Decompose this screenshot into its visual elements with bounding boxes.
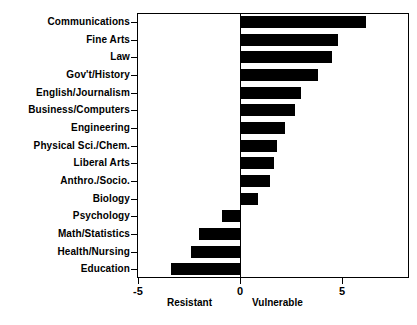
- bar: [240, 140, 277, 152]
- category-label: Law: [0, 51, 130, 62]
- axis-annotation-vulnerable: Vulnerable: [252, 297, 303, 308]
- category-label: Engineering: [0, 122, 130, 133]
- bar: [240, 69, 318, 81]
- category-label: Anthro./Socio.: [0, 175, 130, 186]
- bar: [191, 246, 240, 258]
- chart-page: CommunicationsFine ArtsLawGov't/HistoryE…: [0, 0, 417, 325]
- category-label: Communications: [0, 16, 130, 27]
- y-axis-tick: [131, 216, 137, 217]
- bar: [240, 104, 295, 116]
- bar: [171, 263, 240, 275]
- y-axis-tick: [131, 199, 137, 200]
- plot-area: [137, 13, 409, 278]
- category-label: Education: [0, 263, 130, 274]
- category-label: Physical Sci./Chem.: [0, 140, 130, 151]
- category-label: English/Journalism: [0, 87, 130, 98]
- y-axis-tick: [131, 110, 137, 111]
- bar: [199, 228, 240, 240]
- y-axis-tick: [131, 40, 137, 41]
- y-axis-tick: [131, 57, 137, 58]
- y-axis-tick: [131, 181, 137, 182]
- y-axis-tick: [131, 75, 137, 76]
- bar: [240, 16, 366, 28]
- y-axis-tick: [131, 234, 137, 235]
- category-label-column: CommunicationsFine ArtsLawGov't/HistoryE…: [0, 13, 130, 278]
- bar: [240, 87, 301, 99]
- bar: [240, 157, 274, 169]
- category-label: Health/Nursing: [0, 246, 130, 257]
- y-axis-tick: [131, 128, 137, 129]
- bar: [240, 122, 285, 134]
- axis-annotation-resistant: Resistant: [167, 297, 212, 308]
- category-label: Gov't/History: [0, 69, 130, 80]
- bar: [240, 175, 270, 187]
- y-axis-tick: [131, 93, 137, 94]
- category-label: Math/Statistics: [0, 228, 130, 239]
- category-label: Biology: [0, 193, 130, 204]
- bar: [240, 51, 332, 63]
- category-label: Business/Computers: [0, 104, 130, 115]
- y-axis-tick: [131, 252, 137, 253]
- y-axis-tick: [131, 22, 137, 23]
- x-axis-tick-label: 5: [322, 285, 362, 297]
- x-axis-tick: [342, 278, 343, 284]
- bar: [240, 34, 338, 46]
- y-axis-tick: [131, 163, 137, 164]
- bar: [240, 193, 258, 205]
- x-axis-tick: [138, 278, 139, 284]
- x-axis-tick-label: 0: [220, 285, 260, 297]
- y-axis-tick: [131, 146, 137, 147]
- y-axis-tick: [131, 269, 137, 270]
- x-axis-tick-label: -5: [118, 285, 158, 297]
- category-label: Psychology: [0, 210, 130, 221]
- x-axis-tick: [240, 278, 241, 284]
- bar: [222, 210, 240, 222]
- category-label: Fine Arts: [0, 34, 130, 45]
- category-label: Liberal Arts: [0, 157, 130, 168]
